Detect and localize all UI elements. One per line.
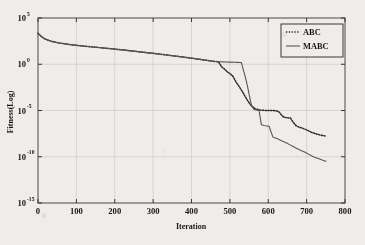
chart-legend: ABCMABC [281, 24, 343, 57]
legend-label-mabc: MABC [303, 42, 329, 51]
x-tick-label: 500 [223, 206, 236, 216]
x-tick-label: 700 [300, 206, 313, 216]
y-tick-label: 10 [17, 13, 26, 23]
x-tick-label: 300 [147, 206, 160, 216]
y-tick-label: 10 [17, 106, 26, 116]
y-tick-exponent: -5 [27, 103, 32, 109]
y-tick-exponent: -10 [27, 149, 35, 155]
y-tick-exponent: 0 [27, 57, 30, 63]
x-tick-label: 0 [36, 206, 40, 216]
y-tick-exponent: -15 [27, 196, 35, 202]
legend-label-abc: ABC [303, 28, 321, 37]
y-tick-label: 10 [17, 59, 26, 69]
y-tick-label: 10 [17, 152, 26, 162]
fitness-convergence-chart: 0100200300400500600700800 10510010-510-1… [0, 0, 365, 245]
x-tick-label: 200 [108, 206, 121, 216]
y-tick-label: 10 [17, 198, 26, 208]
x-axis-title: Iteration [176, 222, 207, 231]
figure-container: 0100200300400500600700800 10510010-510-1… [0, 0, 365, 245]
y-tick-exponent: 5 [27, 11, 30, 17]
x-tick-label: 800 [339, 206, 352, 216]
x-tick-label: 600 [262, 206, 275, 216]
x-tick-label: 100 [70, 206, 83, 216]
x-tick-label: 400 [185, 206, 198, 216]
y-axis-title: Fitness(Log) [6, 90, 15, 133]
